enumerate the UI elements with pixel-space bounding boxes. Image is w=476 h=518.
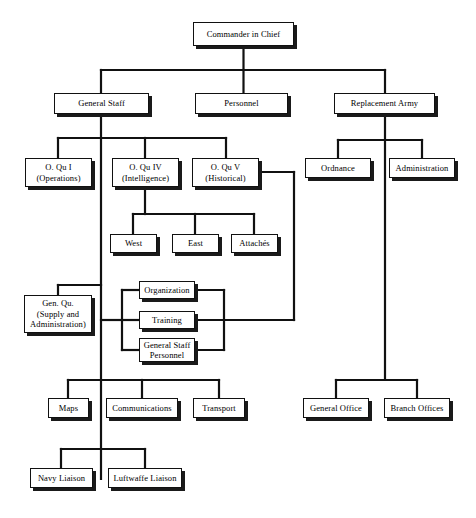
node-east[interactable]: East bbox=[172, 234, 219, 253]
node-admin[interactable]: Administration bbox=[389, 158, 455, 178]
node-genoffice[interactable]: General Office bbox=[303, 398, 369, 418]
node-transport[interactable]: Transport bbox=[193, 398, 245, 418]
node-attaches[interactable]: Attachés bbox=[231, 234, 278, 253]
node-comms[interactable]: Communications bbox=[106, 398, 178, 418]
node-oqu5[interactable]: O. Qu V (Historical) bbox=[192, 158, 259, 187]
node-genqu[interactable]: Gen. Qu. (Supply and Administration) bbox=[24, 295, 92, 333]
node-organization[interactable]: Organization bbox=[139, 281, 195, 299]
node-label-oqu1: O. Qu I (Operations) bbox=[36, 162, 80, 183]
node-label-cinc: Commander in Chief bbox=[207, 29, 281, 39]
node-cinc[interactable]: Commander in Chief bbox=[193, 22, 294, 46]
node-label-genstaff: General Staff bbox=[78, 98, 125, 108]
node-label-organization: Organization bbox=[144, 285, 189, 295]
node-personnel[interactable]: Personnel bbox=[195, 93, 288, 114]
node-oqu1[interactable]: O. Qu I (Operations) bbox=[25, 158, 92, 187]
node-branchoffice[interactable]: Branch Offices bbox=[384, 398, 450, 418]
node-navy[interactable]: Navy Liaison bbox=[30, 468, 93, 488]
node-label-transport: Transport bbox=[202, 403, 236, 413]
node-label-navy: Navy Liaison bbox=[38, 473, 85, 483]
node-label-training: Training bbox=[152, 315, 182, 325]
node-label-branchoffice: Branch Offices bbox=[391, 403, 444, 413]
org-chart: Commander in ChiefGeneral StaffPersonnel… bbox=[0, 0, 476, 518]
node-luftwaffe[interactable]: Luftwaffe Liaison bbox=[108, 468, 182, 488]
node-maps[interactable]: Maps bbox=[48, 398, 89, 418]
node-label-luftwaffe: Luftwaffe Liaison bbox=[113, 473, 176, 483]
node-label-oqu5: O. Qu V (Historical) bbox=[205, 162, 245, 183]
node-label-gsp: General Staff Personnel bbox=[144, 340, 191, 361]
connector-lines bbox=[0, 0, 476, 518]
node-replarmy[interactable]: Replacement Army bbox=[334, 93, 435, 114]
node-label-attaches: Attachés bbox=[239, 238, 270, 248]
node-training[interactable]: Training bbox=[139, 311, 195, 329]
node-label-personnel: Personnel bbox=[224, 98, 258, 108]
node-ordnance[interactable]: Ordnance bbox=[305, 158, 371, 178]
node-label-genqu: Gen. Qu. (Supply and Administration) bbox=[30, 298, 86, 329]
node-label-replarmy: Replacement Army bbox=[351, 98, 418, 108]
node-west[interactable]: West bbox=[110, 234, 157, 253]
node-label-west: West bbox=[125, 238, 142, 248]
node-oqu4[interactable]: O. Qu IV (Intelligence) bbox=[112, 158, 179, 187]
node-label-oqu4: O. Qu IV (Intelligence) bbox=[122, 162, 169, 183]
node-genstaff[interactable]: General Staff bbox=[54, 93, 149, 114]
node-label-genoffice: General Office bbox=[310, 403, 362, 413]
node-gsp[interactable]: General Staff Personnel bbox=[139, 338, 195, 362]
node-label-admin: Administration bbox=[396, 163, 449, 173]
node-label-maps: Maps bbox=[59, 403, 78, 413]
node-label-comms: Communications bbox=[112, 403, 171, 413]
node-label-east: East bbox=[188, 238, 203, 248]
node-label-ordnance: Ordnance bbox=[321, 163, 355, 173]
